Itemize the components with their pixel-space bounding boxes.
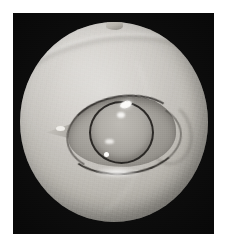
lower-lid-highlight <box>94 167 140 178</box>
lid-margin-highlight-dot <box>104 152 109 157</box>
photo-frame <box>13 13 214 234</box>
eyeball-globe <box>20 22 208 222</box>
eye-region <box>52 97 180 171</box>
apical-papilla-nub <box>106 22 123 30</box>
page-canvas <box>0 0 227 249</box>
